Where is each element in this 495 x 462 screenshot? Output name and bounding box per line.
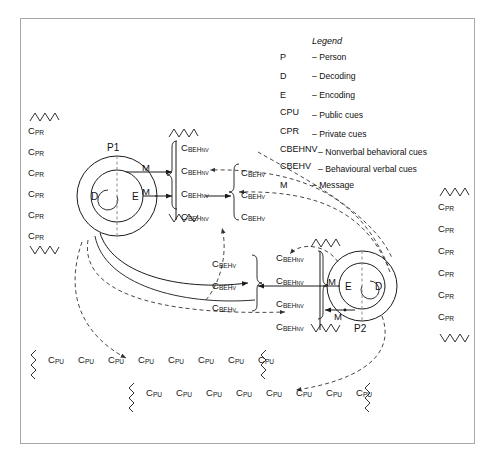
private-cue-label-left: CPR bbox=[28, 210, 44, 221]
public-cue-label-row-two: CPU bbox=[206, 388, 222, 399]
message-label-p1-lower: M bbox=[142, 187, 150, 197]
public-cue-label-row-one: CPU bbox=[138, 355, 154, 366]
message-label-p2-lower: M bbox=[334, 312, 342, 322]
verbal-cue-label-lower: CBEHV bbox=[212, 303, 236, 314]
legend-title: Legend bbox=[312, 36, 342, 46]
message-label-p2-upper: M bbox=[328, 277, 336, 287]
nonverbal-cue-label-lower: CBEHNV bbox=[276, 253, 304, 264]
nonverbal-cue-label-upper: CBEHNV bbox=[181, 166, 209, 177]
public-cue-label-row-two: CPU bbox=[236, 388, 252, 399]
public-cue-label-row-one: CPU bbox=[48, 355, 64, 366]
nonverbal-cue-label-lower: CBEHNV bbox=[276, 299, 304, 310]
legend-key-person: P bbox=[280, 52, 286, 62]
legend-key-encoding: E bbox=[280, 90, 286, 100]
verbal-cue-label-upper: CBEHV bbox=[241, 212, 265, 223]
nonverbal-cue-label-upper: CBEHNV bbox=[181, 212, 209, 223]
private-cue-label-left: CPR bbox=[28, 231, 44, 242]
nonverbal-cue-label-lower: CBEHNV bbox=[276, 322, 304, 333]
private-cue-label-right: CPR bbox=[438, 224, 454, 235]
legend-key-verbal-cues: CBEHV bbox=[280, 161, 311, 171]
legend-value-verbal-cues: – Behavioural verbal cues bbox=[318, 164, 417, 174]
legend-value-message: – Message bbox=[312, 180, 354, 190]
private-cue-label-left: CPR bbox=[28, 189, 44, 200]
person-one-decoding-label: D bbox=[91, 191, 98, 202]
public-cue-label-row-two: CPU bbox=[176, 388, 192, 399]
public-cue-label-row-one: CPU bbox=[198, 355, 214, 366]
public-cue-label-row-one: CPU bbox=[78, 355, 94, 366]
nonverbal-cue-label-upper: CBEHNV bbox=[181, 143, 209, 154]
private-cue-label-left: CPR bbox=[28, 168, 44, 179]
legend-key-nonverbal-cues: CBEHNV bbox=[280, 144, 318, 154]
public-cue-label-row-one: CPU bbox=[258, 355, 274, 366]
private-cue-label-right: CPR bbox=[438, 202, 454, 213]
private-cue-label-right: CPR bbox=[438, 290, 454, 301]
private-cue-label-left: CPR bbox=[28, 147, 44, 158]
legend-value-person: – Person bbox=[312, 52, 346, 62]
legend-value-nonverbal-cues: – Nonverbal behavioral cues bbox=[318, 147, 427, 157]
legend-key-decoding: D bbox=[280, 71, 287, 81]
legend-value-encoding: – Encoding bbox=[312, 90, 355, 100]
private-cue-label-right: CPR bbox=[438, 312, 454, 323]
public-cue-label-row-two: CPU bbox=[326, 388, 342, 399]
legend-key-private-cues: CPR bbox=[280, 126, 299, 136]
public-cue-label-row-two: CPU bbox=[146, 388, 162, 399]
legend-value-public-cues: – Public cues bbox=[312, 110, 363, 120]
private-cue-label-left: CPR bbox=[28, 126, 44, 137]
diagram-canvas: Legend P – Person D – Decoding E – Encod… bbox=[0, 0, 495, 462]
public-cue-label-row-one: CPU bbox=[228, 355, 244, 366]
person-two-label: P2 bbox=[354, 323, 366, 334]
person-one-label: P1 bbox=[107, 142, 119, 153]
legend-key-message: M bbox=[280, 180, 288, 190]
nonverbal-cue-label-lower: CBEHNV bbox=[276, 276, 304, 287]
verbal-cue-label-lower: CBEHV bbox=[212, 281, 236, 292]
public-cue-label-row-one: CPU bbox=[168, 355, 184, 366]
person-two-encoding-label: E bbox=[345, 281, 352, 292]
nonverbal-cue-label-upper: CBEHNV bbox=[181, 189, 209, 200]
private-cue-label-right: CPR bbox=[438, 246, 454, 257]
public-cue-label-row-two: CPU bbox=[296, 388, 312, 399]
legend-value-private-cues: – Private cues bbox=[312, 129, 366, 139]
public-cue-label-row-two: CPU bbox=[266, 388, 282, 399]
legend-key-public-cues: CPU bbox=[280, 107, 299, 117]
public-cue-label-row-two: CPU bbox=[356, 388, 372, 399]
private-cue-label-right: CPR bbox=[438, 268, 454, 279]
public-cue-label-row-one: CPU bbox=[108, 355, 124, 366]
verbal-cue-label-lower: CBEHV bbox=[212, 259, 236, 270]
person-one-encoding-label: E bbox=[132, 191, 139, 202]
legend-value-decoding: – Decoding bbox=[312, 71, 355, 81]
person-two-decoding-label: D bbox=[375, 281, 382, 292]
verbal-cue-label-upper: CBEHV bbox=[241, 168, 265, 179]
message-label-p1-upper: M bbox=[142, 163, 150, 173]
verbal-cue-label-upper: CBEHV bbox=[241, 190, 265, 201]
